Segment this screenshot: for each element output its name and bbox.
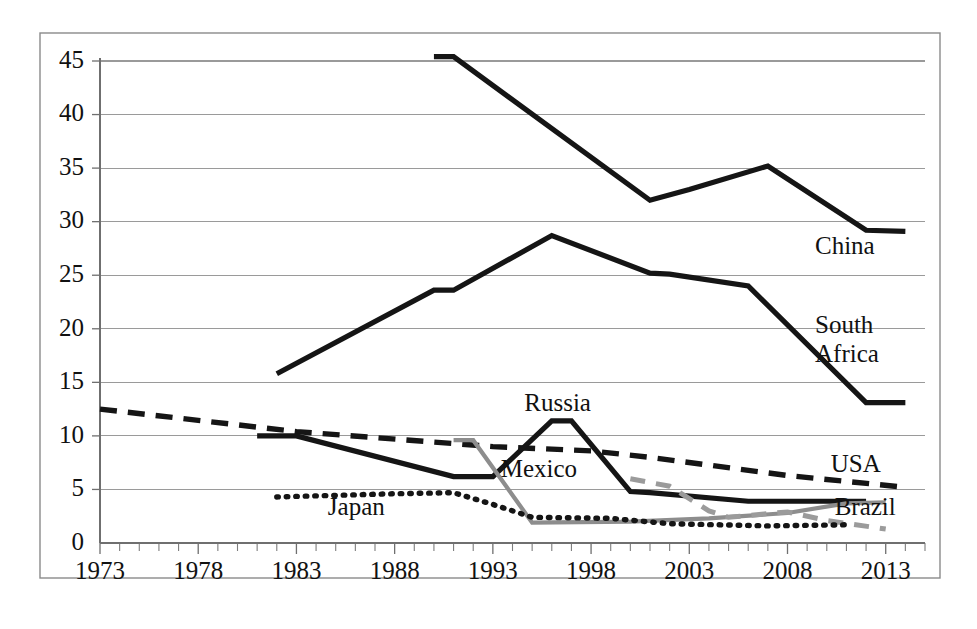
ytick-label-30: 30 bbox=[59, 206, 84, 233]
xtick-label-1983: 1983 bbox=[271, 557, 321, 584]
ytick-label-25: 25 bbox=[59, 260, 84, 287]
xtick-label-1988: 1988 bbox=[370, 557, 420, 584]
series-label-russia: Russia bbox=[524, 389, 591, 416]
series-label-japan: Japan bbox=[328, 493, 385, 520]
ytick-label-40: 40 bbox=[59, 99, 84, 126]
ytick-label-0: 0 bbox=[72, 528, 85, 555]
ytick-label-20: 20 bbox=[59, 314, 84, 341]
x-axis-labels: 197319781983198819931998200320082013 bbox=[75, 557, 911, 584]
xtick-label-1973: 1973 bbox=[75, 557, 125, 584]
series-label-china: China bbox=[815, 232, 875, 259]
xtick-label-1993: 1993 bbox=[468, 557, 518, 584]
xtick-label-2008: 2008 bbox=[763, 557, 813, 584]
series-label-mexico: Mexico bbox=[501, 455, 577, 482]
series-label-brazil: Brazil bbox=[835, 493, 896, 520]
ytick-label-45: 45 bbox=[59, 46, 84, 73]
ytick-label-15: 15 bbox=[59, 367, 84, 394]
chart-figure: 051015202530354045 197319781983198819931… bbox=[0, 0, 977, 629]
xtick-label-1978: 1978 bbox=[173, 557, 223, 584]
xtick-label-2013: 2013 bbox=[861, 557, 911, 584]
ytick-label-35: 35 bbox=[59, 153, 84, 180]
ytick-label-5: 5 bbox=[72, 474, 85, 501]
xtick-label-1998: 1998 bbox=[566, 557, 616, 584]
series-label-usa: USA bbox=[831, 450, 881, 477]
ytick-label-10: 10 bbox=[59, 421, 84, 448]
xtick-label-2003: 2003 bbox=[664, 557, 714, 584]
